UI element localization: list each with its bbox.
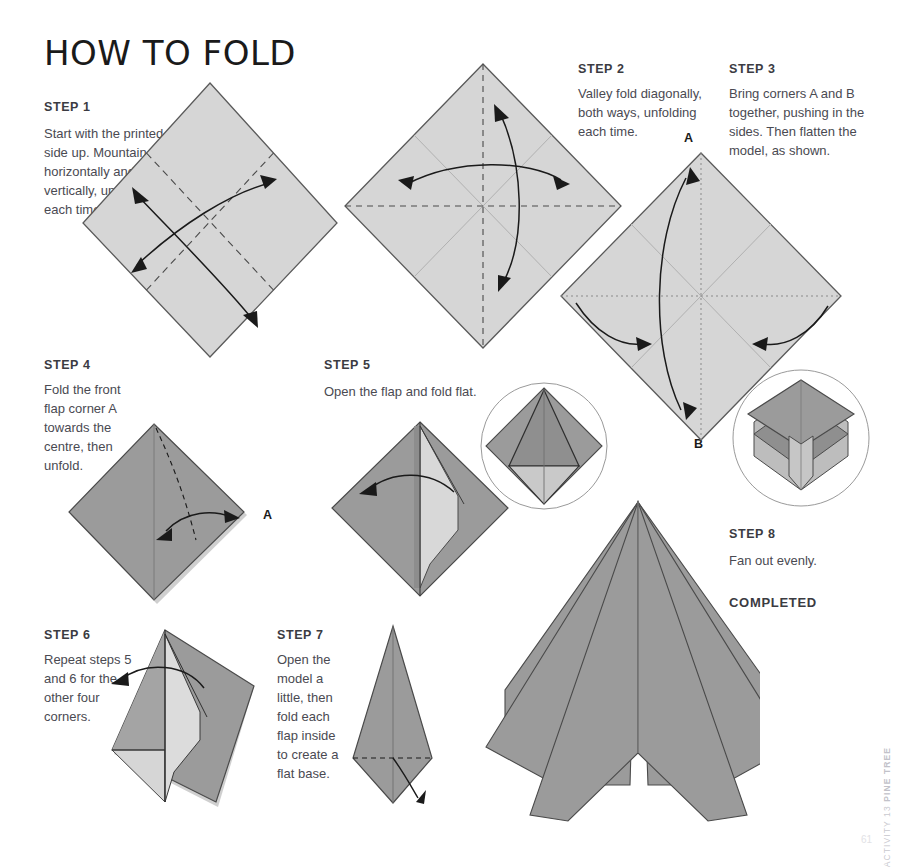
step-7-figure xyxy=(340,618,480,823)
step-4-figure xyxy=(68,418,268,608)
origami-instruction-page: HOW TO FOLD STEP 1 Start with the printe… xyxy=(0,0,900,867)
side-note-activity: ACTIVITY 13 xyxy=(882,805,892,867)
step-5-heading: STEP 5 xyxy=(324,358,370,372)
step-7-body: Open the model a little, then fold each … xyxy=(277,650,343,783)
step-3-corner-a-label: A xyxy=(684,131,693,145)
step-7-heading: STEP 7 xyxy=(277,628,323,642)
step-5-centre-band xyxy=(414,426,420,588)
side-margin-note: ACTIVITY 13 PINE TREE xyxy=(882,747,892,867)
step-4-paper xyxy=(69,424,244,600)
step-4-heading: STEP 4 xyxy=(44,358,90,372)
step-1-figure xyxy=(75,75,345,365)
step-1-paper xyxy=(83,83,337,357)
side-note-model: PINE TREE xyxy=(882,747,892,802)
step-3-heading: STEP 3 xyxy=(729,62,775,76)
step-6-arrowhead xyxy=(111,672,129,686)
step-7-paper xyxy=(353,626,432,803)
page-title: HOW TO FOLD xyxy=(44,33,296,73)
completed-tree-figure xyxy=(460,485,760,830)
step-6-bottom-left-flap xyxy=(112,750,165,802)
step-6-heading: STEP 6 xyxy=(44,628,90,642)
page-folio: 61 xyxy=(861,834,872,845)
